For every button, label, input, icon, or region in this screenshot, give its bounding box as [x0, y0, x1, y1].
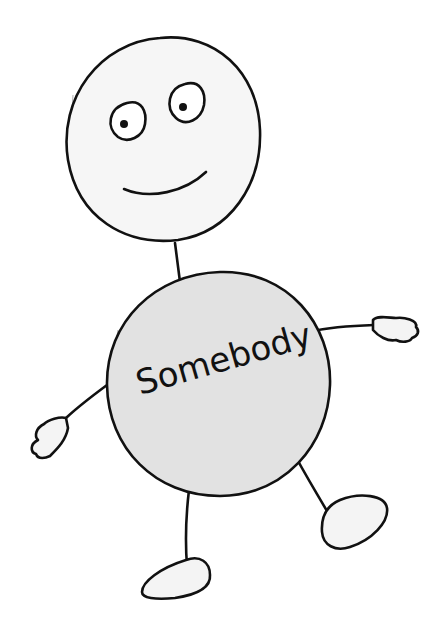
left-arm [32, 377, 118, 458]
right-pupil [179, 103, 187, 111]
right-leg [290, 446, 387, 549]
right-eye [170, 83, 205, 122]
left-hand [32, 417, 68, 458]
right-foot [322, 496, 387, 549]
neck [175, 243, 180, 282]
right-hand [373, 317, 418, 342]
left-eye [111, 102, 146, 140]
body: Somebody [107, 272, 330, 496]
left-leg [142, 490, 210, 599]
stick-figure-drawing: Somebody [0, 0, 444, 637]
left-pupil [120, 120, 128, 128]
head [67, 37, 261, 240]
left-foot [142, 558, 210, 598]
